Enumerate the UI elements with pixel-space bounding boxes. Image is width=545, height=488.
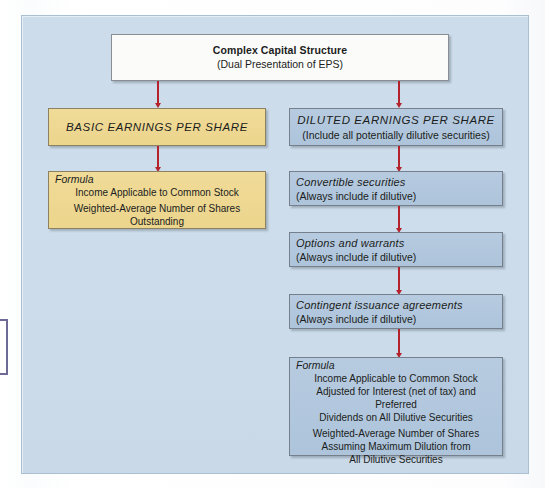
formula-numerator-line-1: Income Applicable to Common Stock [296, 372, 496, 385]
node-title: Contingent issuance agreements [296, 298, 496, 312]
formula-denominator-line-2: Assuming Maximum Dilution from [296, 440, 496, 453]
node-convertible-securities: Convertible securities (Always include i… [289, 171, 503, 206]
node-complex-capital-structure: Complex Capital Structure (Dual Presenta… [111, 34, 449, 81]
formula-denominator-line-1: Weighted-Average Number of Shares Outsta… [55, 202, 259, 228]
node-note: (Always include if dilutive) [296, 250, 496, 264]
diagram-panel: Complex Capital Structure (Dual Presenta… [21, 15, 529, 474]
node-options-and-warrants: Options and warrants (Always include if … [289, 232, 503, 267]
node-title: Options and warrants [296, 236, 496, 250]
node-diluted-earnings-per-share: DILUTED EARNINGS PER SHARE (Include all … [289, 108, 503, 146]
node-header-note: (Include all potentially dilutive securi… [296, 128, 496, 142]
node-header: BASIC EARNINGS PER SHARE [55, 120, 259, 135]
arrow-top-to-basic [155, 81, 161, 108]
arrow-options-and-warrants-to-contingent-issuance-agreements [396, 267, 402, 295]
node-subtitle: (Dual Presentation of EPS) [118, 57, 442, 71]
node-header: DILUTED EARNINGS PER SHARE [296, 113, 496, 128]
node-basic-formula: Formula Income Applicable to Common Stoc… [48, 171, 266, 229]
arrow-top-to-diluted [396, 81, 402, 108]
node-note: (Always include if dilutive) [296, 312, 496, 326]
node-note: (Always include if dilutive) [296, 189, 496, 203]
node-contingent-issuance-agreements: Contingent issuance agreements (Always i… [289, 294, 503, 329]
formula-denominator-line-1: Weighted-Average Number of Shares [296, 427, 496, 440]
arrow-contingent-issuance-agreements-to-formula [396, 329, 402, 358]
formula-numerator-line-3: Dividends on All Dilutive Securities [296, 411, 496, 424]
node-title: Complex Capital Structure [118, 44, 442, 57]
node-basic-earnings-per-share: BASIC EARNINGS PER SHARE [48, 108, 266, 146]
arrow-basic-to-formula [155, 146, 161, 172]
formula-label: Formula [296, 358, 496, 372]
arrow-diluted-to-convertible-securities [396, 146, 402, 172]
formula-numerator-line-2: Adjusted for Interest (net of tax) and P… [296, 385, 496, 411]
formula-denominator-line-3: All Dilutive Securities [296, 453, 496, 466]
formula-label: Formula [55, 172, 259, 186]
formula-numerator-line-1: Income Applicable to Common Stock [55, 186, 259, 199]
page-edge-fragment [0, 319, 8, 375]
node-diluted-formula: Formula Income Applicable to Common Stoc… [289, 357, 503, 456]
exhibit-page: Complex Capital Structure (Dual Presenta… [0, 0, 545, 488]
node-title: Convertible securities [296, 175, 496, 189]
arrow-convertible-securities-to-options-and-warrants [396, 206, 402, 233]
